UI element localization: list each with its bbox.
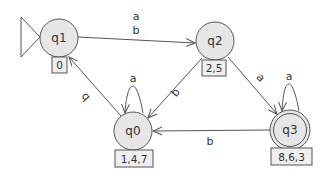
edge-label-q0-q1: b [78,90,92,104]
edge-label-q3-q0: b [207,135,214,148]
transition-q0-loop: a [125,72,143,113]
edge-label-q1-q2-a: a [133,10,140,23]
transition-q3-loop: a [282,70,299,111]
state-box-label-q1: 0 [56,59,63,71]
state-q3: q3 8,6,3 [270,110,312,165]
edge-label-q1-q2-b: b [133,24,140,37]
transition-q0-q1: b [69,57,121,116]
automaton-diagram: a b b b a b a a q1 0 q2 2,5 [0,0,328,178]
edge-label-q0-loop: a [130,72,137,85]
state-label-q2: q2 [207,34,222,48]
state-label-q1: q1 [51,31,66,45]
edge-label-q2-q3: a [254,71,268,85]
transition-q3-q0: b [153,130,270,148]
transition-q2-q0: b [148,58,202,118]
state-box-label-q3: 8,6,3 [278,151,305,163]
transition-q2-q3: a [228,57,277,114]
state-label-q3: q3 [282,123,297,137]
state-box-label-q0: 1,4,7 [121,153,148,165]
state-q1: q1 0 [40,19,78,73]
state-box-label-q2: 2,5 [206,62,223,74]
state-q0: q0 1,4,7 [114,112,153,167]
initial-state-marker [21,17,40,57]
state-label-q0: q0 [125,124,140,138]
transition-q1-q2: a b [78,10,195,43]
state-q2: q2 2,5 [196,22,234,76]
edge-label-q3-loop: a [286,70,293,83]
